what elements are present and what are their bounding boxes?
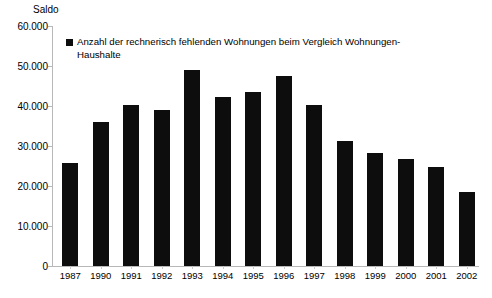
y-tick-label: 30.000 bbox=[17, 141, 48, 152]
y-axis-title: Saldo bbox=[33, 4, 59, 16]
x-tick-mark bbox=[70, 266, 71, 269]
bar bbox=[215, 97, 231, 266]
x-tick-label: 1992 bbox=[146, 270, 178, 281]
bar bbox=[123, 105, 139, 266]
y-tick-mark bbox=[48, 106, 52, 107]
x-tick-label: 1991 bbox=[115, 270, 147, 281]
bar bbox=[154, 110, 170, 266]
bar bbox=[245, 92, 261, 266]
x-tick-label: 2000 bbox=[390, 270, 422, 281]
legend-label: Anzahl der rechnerisch fehlenden Wohnung… bbox=[77, 36, 443, 61]
chart-legend: Anzahl der rechnerisch fehlenden Wohnung… bbox=[66, 36, 456, 61]
bar bbox=[62, 163, 78, 266]
x-tick-mark bbox=[162, 266, 163, 269]
bar bbox=[337, 141, 353, 266]
x-tick-label: 1995 bbox=[237, 270, 269, 281]
plot-area: 60.00050.00040.00030.00020.00010.0000 19… bbox=[52, 26, 479, 266]
x-tick-label: 1997 bbox=[298, 270, 330, 281]
x-tick-mark bbox=[375, 266, 376, 269]
y-tick-mark bbox=[48, 66, 52, 67]
x-tick-mark bbox=[284, 266, 285, 269]
legend-swatch-icon bbox=[66, 39, 73, 46]
y-axis-line bbox=[52, 26, 53, 266]
y-tick-label: 20.000 bbox=[17, 181, 48, 192]
scan-artifact-strip bbox=[0, 288, 492, 298]
x-tick-label: 1999 bbox=[359, 270, 391, 281]
y-tick-mark bbox=[48, 26, 52, 27]
x-tick-label: 2001 bbox=[420, 270, 452, 281]
bar bbox=[93, 122, 109, 266]
x-tick-mark bbox=[101, 266, 102, 269]
bar-chart: Saldo 60.00050.00040.00030.00020.00010.0… bbox=[0, 0, 492, 298]
x-tick-mark bbox=[436, 266, 437, 269]
y-tick-mark bbox=[48, 146, 52, 147]
bar bbox=[459, 192, 475, 266]
y-tick-label: 60.000 bbox=[17, 21, 48, 32]
x-tick-label: 1993 bbox=[176, 270, 208, 281]
y-tick-mark bbox=[48, 186, 52, 187]
x-tick-mark bbox=[314, 266, 315, 269]
x-tick-mark bbox=[345, 266, 346, 269]
x-tick-label: 1990 bbox=[85, 270, 117, 281]
x-tick-mark bbox=[467, 266, 468, 269]
bar bbox=[184, 70, 200, 266]
bar bbox=[367, 153, 383, 266]
y-tick-mark bbox=[48, 266, 52, 267]
x-tick-label: 1998 bbox=[329, 270, 361, 281]
x-tick-mark bbox=[131, 266, 132, 269]
y-tick-label: 50.000 bbox=[17, 61, 48, 72]
y-tick-label: 10.000 bbox=[17, 221, 48, 232]
x-tick-label: 1994 bbox=[207, 270, 239, 281]
bar bbox=[428, 167, 444, 266]
x-tick-mark bbox=[406, 266, 407, 269]
x-tick-label: 2002 bbox=[451, 270, 483, 281]
bar bbox=[306, 105, 322, 266]
y-tick-mark bbox=[48, 226, 52, 227]
x-tick-mark bbox=[253, 266, 254, 269]
bar bbox=[398, 159, 414, 266]
bar bbox=[276, 76, 292, 266]
x-axis-line bbox=[52, 266, 479, 267]
x-tick-mark bbox=[223, 266, 224, 269]
y-tick-label: 40.000 bbox=[17, 101, 48, 112]
x-tick-label: 1996 bbox=[268, 270, 300, 281]
x-tick-mark bbox=[192, 266, 193, 269]
x-tick-label: 1987 bbox=[54, 270, 86, 281]
